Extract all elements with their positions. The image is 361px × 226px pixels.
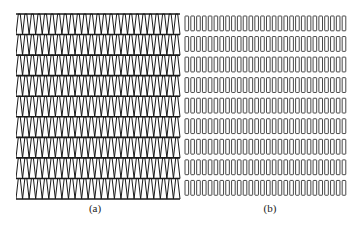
caption-b: (b)	[250, 202, 290, 214]
panel-b-slot-pattern	[184, 13, 349, 200]
caption-a: (a)	[75, 202, 115, 214]
panel-a-zigzag-pattern	[16, 13, 181, 200]
